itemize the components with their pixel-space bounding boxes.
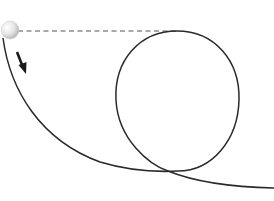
- ball: [1, 21, 19, 39]
- diagram-canvas: [0, 0, 274, 201]
- loop-track: [116, 31, 239, 171]
- direction-arrow-icon: [17, 52, 27, 74]
- exit-track: [168, 171, 274, 188]
- loop-track-diagram: [0, 0, 274, 201]
- descending-track: [3, 38, 178, 171]
